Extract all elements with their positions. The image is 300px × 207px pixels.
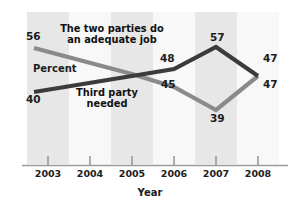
x-tick-label-2004: 2004 bbox=[70, 169, 110, 180]
x-tick-label-2007: 2007 bbox=[196, 169, 236, 180]
value-label-39: 39 bbox=[210, 113, 225, 125]
y-axis-title: Percent bbox=[33, 63, 77, 74]
x-tick-label-2008: 2008 bbox=[238, 169, 278, 180]
x-tick-label-2003: 2003 bbox=[28, 169, 68, 180]
value-label-47-lower: 47 bbox=[263, 79, 278, 91]
value-label-56: 56 bbox=[26, 31, 41, 43]
value-label-48: 48 bbox=[160, 53, 175, 65]
x-axis-title: Year bbox=[110, 187, 190, 198]
annotation-two-parties-line2: an adequate job bbox=[57, 35, 167, 46]
chart-container: 56 40 48 45 57 39 47 47 Percent The two … bbox=[0, 0, 300, 207]
value-label-40: 40 bbox=[26, 94, 41, 106]
value-label-47-upper: 47 bbox=[263, 53, 278, 65]
x-tick-label-2006: 2006 bbox=[154, 169, 194, 180]
value-label-57: 57 bbox=[210, 32, 225, 44]
x-tick-label-2005: 2005 bbox=[112, 169, 152, 180]
annotation-third-party-line2: needed bbox=[57, 99, 157, 110]
value-label-45: 45 bbox=[161, 79, 176, 91]
